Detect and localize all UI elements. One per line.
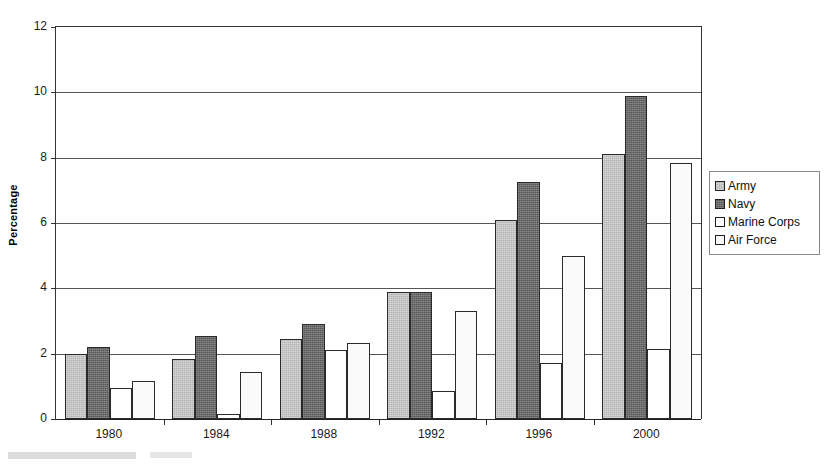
y-axis-title-label: Percentage [7,184,19,245]
y-tick-label: 10 [21,85,47,97]
legend-item-label: Army [728,180,756,192]
y-axis-title: Percentage [2,150,24,280]
legend-item-label: Air Force [728,234,777,246]
x-tick-label: 1992 [396,428,466,440]
scan-artifact [8,452,136,459]
legend-item-label: Marine Corps [728,216,800,228]
bar-air-force-1992 [455,311,478,419]
bar-marine-corps-1980 [110,388,133,419]
legend-item-army[interactable]: Army [715,177,814,195]
y-tick-label: 0 [21,412,47,424]
x-tick-label: 1996 [504,428,574,440]
bar-army-1996 [495,220,518,419]
bar-air-force-1984 [240,372,263,419]
y-tick-label: 12 [21,20,47,32]
bar-navy-1992 [410,292,433,419]
x-tick-label: 1988 [289,428,359,440]
bar-army-1988 [280,339,303,419]
bar-navy-2000 [625,96,648,419]
bar-navy-1988 [302,324,325,419]
bar-air-force-1980 [132,381,155,419]
y-tickmark [51,223,56,224]
bar-air-force-2000 [670,163,693,419]
legend-swatch-icon [715,199,725,209]
y-tickmark [51,92,56,93]
bar-chart: Percentage 024681012 1980198419881992199… [0,0,826,464]
legend-swatch-icon [715,217,725,227]
x-tick-label: 1984 [181,428,251,440]
y-tickmark [51,158,56,159]
bar-army-2000 [602,154,625,419]
bar-air-force-1996 [562,256,585,419]
x-tick-label: 1980 [74,428,144,440]
legend-swatch-icon [715,235,725,245]
bar-navy-1996 [517,182,540,419]
x-tick-label: 2000 [611,428,681,440]
legend-item-navy[interactable]: Navy [715,195,814,213]
y-tickmark [51,27,56,28]
plot-inner [56,27,701,419]
y-tick-label: 4 [21,281,47,293]
bar-air-force-1988 [347,343,370,419]
bar-navy-1980 [87,347,110,419]
gridline [56,92,701,93]
bar-marine-corps-1988 [325,350,348,419]
legend-item-label: Navy [728,198,755,210]
bar-marine-corps-1996 [540,363,563,419]
bar-marine-corps-1992 [432,391,455,419]
y-tickmark [51,354,56,355]
legend-item-air-force[interactable]: Air Force [715,231,814,249]
legend-item-marine-corps[interactable]: Marine Corps [715,213,814,231]
x-axis-baseline [56,419,701,420]
bar-marine-corps-2000 [647,349,670,419]
legend-swatch-icon [715,181,725,191]
y-tick-label: 6 [21,216,47,228]
y-tick-label: 2 [21,347,47,359]
scan-artifact-secondary [150,452,192,458]
bar-army-1980 [65,354,88,419]
plot-area [55,26,702,419]
y-tickmark [51,288,56,289]
bar-army-1984 [172,359,195,419]
y-tick-label: 8 [21,151,47,163]
bar-marine-corps-1984 [217,414,240,419]
bar-army-1992 [387,292,410,419]
chart-legend: ArmyNavyMarine CorpsAir Force [709,171,820,255]
bar-navy-1984 [195,336,218,419]
